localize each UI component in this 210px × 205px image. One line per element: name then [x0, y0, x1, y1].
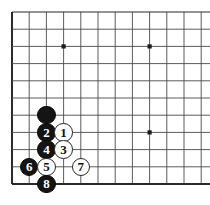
- star-point: [62, 44, 66, 48]
- stone-8[interactable]: 8: [37, 175, 55, 193]
- stone-3[interactable]: 3: [54, 140, 72, 158]
- star-point: [148, 44, 152, 48]
- stone-move-number: 2: [43, 125, 50, 138]
- star-points: [62, 44, 152, 134]
- star-point: [148, 130, 152, 134]
- stone-move-number: 6: [26, 160, 33, 173]
- stone-black-unnumbered[interactable]: [37, 106, 55, 124]
- stone-1[interactable]: 1: [54, 123, 72, 141]
- stone-move-number: 7: [78, 160, 85, 173]
- stone-move-number: 8: [43, 177, 50, 190]
- stone-move-number: 1: [60, 125, 67, 138]
- stone-4[interactable]: 4: [37, 140, 55, 158]
- go-board-diagram: 21436578: [0, 0, 210, 205]
- stone-5[interactable]: 5: [37, 158, 55, 176]
- stone-move-number: 3: [60, 143, 67, 156]
- stone-2[interactable]: 2: [37, 123, 55, 141]
- stone-move-number: 5: [43, 160, 50, 173]
- stone-move-number: 4: [43, 143, 50, 156]
- stone-7[interactable]: 7: [72, 158, 90, 176]
